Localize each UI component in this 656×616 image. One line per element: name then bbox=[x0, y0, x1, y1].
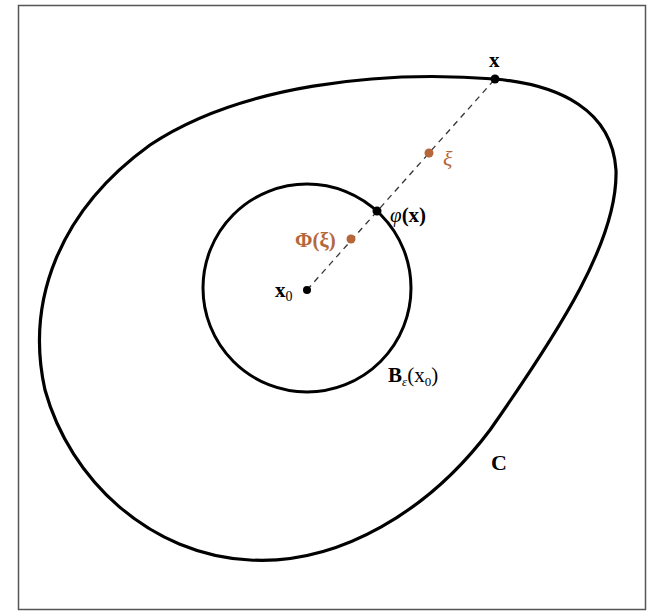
label-Phi-xi: Φ(ξ) bbox=[295, 228, 336, 252]
point-Phi-xi bbox=[347, 235, 356, 244]
label-x0-sub: 0 bbox=[286, 289, 293, 304]
label-C: C bbox=[491, 450, 507, 475]
point-x0 bbox=[303, 286, 311, 294]
frame-border bbox=[19, 6, 646, 610]
label-x0: x0 bbox=[275, 278, 293, 304]
label-phi-x-arg: (x) bbox=[402, 203, 427, 227]
label-Phi-xi-text: Φ(ξ) bbox=[295, 228, 336, 252]
label-x0-base: x bbox=[275, 278, 286, 302]
point-xi bbox=[425, 149, 434, 158]
point-x bbox=[491, 75, 500, 84]
label-ball-close: ) bbox=[431, 363, 438, 387]
dashed-ray bbox=[307, 79, 495, 290]
label-x: x bbox=[489, 48, 500, 72]
label-ball-B: B bbox=[388, 363, 402, 387]
label-ball: Bε(x0) bbox=[388, 363, 438, 389]
label-phi-x-func: φ bbox=[390, 203, 402, 227]
label-phi-x: φ(x) bbox=[390, 203, 426, 227]
curve-C bbox=[40, 77, 617, 561]
label-ball-open: (x bbox=[407, 363, 425, 387]
diagram-canvas: x ξ φ(x) Φ(ξ) x0 Bε(x0) C bbox=[0, 0, 656, 616]
point-phi-x bbox=[373, 207, 382, 216]
label-xi: ξ bbox=[443, 146, 453, 171]
